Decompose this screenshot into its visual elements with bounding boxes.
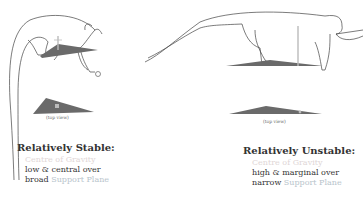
unstable-plane-width: narrow [252,178,284,187]
ball [96,72,101,77]
stable-cog-label: Centre of Gravity [25,155,109,165]
stable-plane-width: broad [25,175,51,184]
unstable-cog-label: Centre of Gravity [252,158,342,168]
stable-heading: Relatively Stable: [17,142,115,153]
unstable-description: Centre of Gravity high & marginal over n… [252,158,342,188]
stable-description: Centre of Gravity low & central over bro… [25,155,109,185]
unstable-top-view-cog [299,111,302,114]
stable-position-text: low & central over [25,165,109,175]
stable-plane-line: broad Support Plane [25,175,109,185]
stable-support-plane [40,44,98,58]
stable-support-plane-label: Support Plane [51,175,109,184]
unstable-top-view-caption: (top view) [263,119,286,124]
unstable-plane-line: narrow Support Plane [252,178,342,188]
stable-top-view-plane [33,98,94,114]
stable-top-view-caption: (top view) [46,115,69,120]
stable-top-view-cog [55,104,59,108]
walking-monkey-illustration [145,12,363,70]
unstable-position-text: high & marginal over [252,168,342,178]
unstable-support-plane [226,60,323,66]
unstable-support-plane-label: Support Plane [284,178,342,187]
unstable-heading: Relatively Unstable: [243,145,355,156]
unstable-top-view-plane [229,106,322,114]
